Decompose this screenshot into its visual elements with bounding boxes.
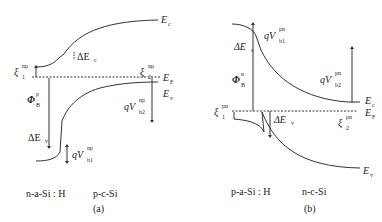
a-label-Ev: Ev [163,89,169,99]
b-label-dEc: ΔEc [234,42,246,52]
b-label-dEv: ΔEv [274,115,286,125]
b-label-phiB: ΦnB [232,75,240,85]
b-right-material: n-c-Si [302,186,326,197]
b-label-qVb2: qVpnb2 [320,75,331,85]
b-conduction-band [232,24,360,102]
a-label-qVb2: qVnpb2 [124,102,135,112]
a-label-Ef: EF [163,73,169,83]
a-label-qVb1: qVnpb1 [72,150,83,160]
b-left-material: p-a-Si : H [231,186,270,197]
b-label-qVb1: qVpnb1 [264,31,275,41]
a-label-phiB: ΦpB [27,95,35,105]
a-left-material: n-a-Si : H [26,188,65,199]
b-label-Ef: EF [365,108,371,118]
a-label-dEc: ΔEc [77,52,90,62]
a-right-material: p-c-Si [93,188,117,199]
a-valence-band [36,82,158,161]
b-label-xi1: ξpn1 [214,107,218,117]
a-label-Ec: Ec [161,15,167,25]
b-label-Ec: Ec [365,96,371,106]
b-caption: (b) [304,203,316,214]
a-caption: (a) [93,203,104,214]
a-label-xi2: ξnp2 [140,67,144,77]
b-label-xi2: ξpn2 [338,118,342,128]
a-conduction-band [36,20,158,67]
a-label-dEv: ΔEv [28,133,41,143]
b-label-Ev: Ev [363,166,369,176]
a-label-xi1: ξnp1 [14,67,18,77]
